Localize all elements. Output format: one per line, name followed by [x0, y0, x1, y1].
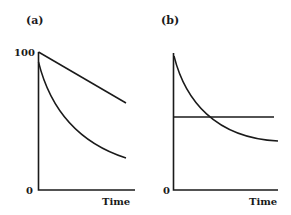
axes-a: [39, 52, 136, 190]
series-linear-a: [39, 52, 127, 103]
panel-label-b: (b): [161, 14, 179, 27]
x-axis-label-a: Time: [102, 196, 130, 207]
y-tick-0-b: 0: [163, 185, 170, 196]
y-tick-100: 100: [14, 47, 35, 58]
panel-label-a: (a): [26, 14, 44, 27]
x-axis-label-b: Time: [249, 196, 277, 207]
y-tick-0-a: 0: [26, 185, 33, 196]
panel-b: (b) 0 Time: [161, 14, 278, 207]
panel-a: (a) 100 0 Time: [14, 14, 135, 207]
series-decay-a: [39, 62, 127, 158]
axes-b: [174, 53, 279, 190]
series-decay-b: [174, 56, 278, 141]
figure: (a) 100 0 Time (b) 0 Time: [0, 0, 291, 215]
